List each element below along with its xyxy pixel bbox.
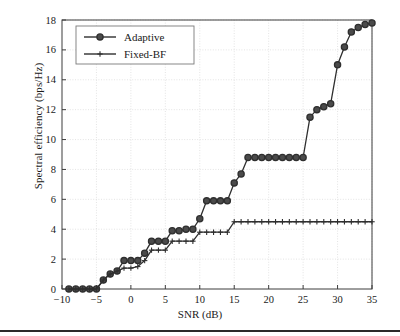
x-axis-tick-label: −5	[91, 294, 102, 305]
data-point-adaptive	[266, 154, 272, 160]
data-point-adaptive	[272, 154, 278, 160]
x-axis-tick-label: 30	[332, 294, 343, 305]
data-point-adaptive	[341, 44, 347, 50]
data-point-adaptive	[224, 198, 230, 204]
data-point-adaptive	[121, 258, 127, 264]
x-axis-tick-label: −10	[54, 294, 70, 305]
data-point-adaptive	[210, 198, 216, 204]
data-point-adaptive	[355, 24, 361, 30]
x-axis-tick-label: 15	[229, 294, 240, 305]
data-point-adaptive	[369, 20, 375, 26]
data-point-adaptive	[183, 226, 189, 232]
data-point-adaptive	[245, 154, 251, 160]
data-point-adaptive	[142, 250, 148, 256]
data-point-adaptive	[334, 62, 340, 68]
data-point-adaptive	[314, 107, 320, 113]
y-axis-tick-label: 10	[46, 134, 57, 145]
data-point-adaptive	[328, 101, 334, 107]
data-point-adaptive	[169, 228, 175, 234]
y-axis-title: Spectral efficiency (bps/Hz)	[32, 0, 44, 256]
data-point-adaptive	[155, 238, 161, 244]
y-axis-tick-label: 0	[51, 284, 56, 295]
data-point-adaptive	[197, 216, 203, 222]
data-point-adaptive	[176, 228, 182, 234]
footer-divider	[0, 330, 400, 332]
data-point-adaptive	[162, 238, 168, 244]
data-point-adaptive	[204, 198, 210, 204]
data-point-adaptive	[231, 180, 237, 186]
figure-container: −10−505101520253035024681012141618Adapti…	[0, 0, 400, 336]
y-axis-tick-label: 2	[51, 254, 56, 265]
data-point-adaptive	[279, 154, 285, 160]
data-point-adaptive	[348, 29, 354, 35]
data-point-adaptive	[259, 154, 265, 160]
data-point-adaptive	[307, 114, 313, 120]
x-axis-tick-label: 20	[263, 294, 274, 305]
data-point-adaptive	[300, 154, 306, 160]
x-axis-tick-label: 35	[367, 294, 378, 305]
data-point-adaptive	[238, 171, 244, 177]
data-point-adaptive	[217, 198, 223, 204]
x-axis-tick-label: 5	[163, 294, 168, 305]
y-axis-tick-label: 8	[51, 164, 56, 175]
data-point-adaptive	[321, 104, 327, 110]
legend-circle-marker	[97, 34, 103, 40]
data-point-adaptive	[128, 258, 134, 264]
x-axis-tick-label: 10	[195, 294, 206, 305]
y-axis-tick-label: 6	[51, 194, 56, 205]
data-point-adaptive	[286, 154, 292, 160]
x-axis-title: SNR (dB)	[0, 308, 400, 320]
data-point-adaptive	[293, 154, 299, 160]
chart-plot: −10−505101520253035024681012141618Adapti…	[0, 0, 400, 336]
legend-label-adaptive: Adaptive	[124, 31, 164, 43]
data-point-adaptive	[135, 258, 141, 264]
data-point-adaptive	[190, 226, 196, 232]
y-axis-tick-label: 12	[46, 104, 57, 115]
y-axis-tick-label: 4	[51, 224, 57, 235]
data-point-adaptive	[148, 238, 154, 244]
y-axis-tick-label: 18	[46, 15, 57, 26]
x-axis-tick-label: 25	[298, 294, 309, 305]
data-point-adaptive	[362, 21, 368, 27]
data-point-adaptive	[252, 154, 258, 160]
x-axis-tick-label: 0	[128, 294, 133, 305]
y-axis-tick-label: 16	[46, 44, 57, 55]
y-axis-tick-label: 14	[46, 74, 57, 85]
legend-label-fixed-bf: Fixed-BF	[124, 48, 166, 60]
